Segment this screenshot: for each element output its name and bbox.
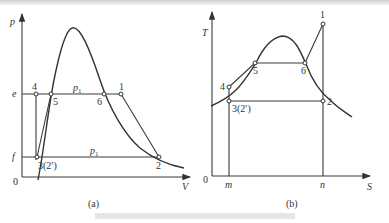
t-axis-label: T [202, 27, 209, 38]
level-e-label: e [12, 88, 17, 99]
label-1-ts: 1 [320, 9, 325, 20]
figure-caption-illegible [95, 213, 295, 219]
label-5: 5 [53, 96, 58, 107]
label-2-ts: 2 [327, 96, 332, 107]
line-6-1 [305, 24, 323, 63]
point-3 [35, 155, 39, 159]
point-4 [34, 92, 38, 96]
diagram-canvas: p V 0 e f p1 p1 4 5 6 1 3(2′) 2 (a) [0, 0, 389, 223]
point-4-ts [227, 85, 231, 89]
v-axis-label: V [182, 181, 190, 192]
label-3-ts: 3(2′) [232, 103, 251, 115]
s-axis-label: S [367, 181, 372, 192]
label-3: 3(2′) [38, 160, 57, 172]
pv-diagram: p V 0 e f p1 p1 4 5 6 1 3(2′) 2 (a) [9, 14, 190, 210]
label-6: 6 [97, 96, 102, 107]
level-f-label: f [12, 151, 16, 162]
p-axis-label: p [9, 16, 15, 27]
label-5-ts: 5 [253, 65, 258, 76]
point-1-ts [321, 22, 325, 26]
pressure-p1-upper: p1 [72, 82, 82, 95]
ts-diagram: T S 0 m n 1 5 6 4 3(2′) 2 (b) [202, 9, 372, 210]
point-2 [157, 155, 161, 159]
tick-m: m [225, 179, 232, 190]
label-2: 2 [156, 160, 161, 171]
point-1 [119, 92, 123, 96]
point-2-ts [321, 99, 325, 103]
label-1: 1 [119, 81, 124, 92]
label-4: 4 [32, 81, 37, 92]
point-3-ts [227, 99, 231, 103]
caption-a: (a) [88, 198, 99, 210]
point-6 [102, 92, 106, 96]
origin-label: 0 [13, 176, 18, 187]
label-4-ts: 4 [220, 81, 225, 92]
origin-label-ts: 0 [203, 174, 208, 185]
tick-n: n [320, 179, 325, 190]
pressure-p1-lower: p1 [89, 145, 99, 158]
caption-b: (b) [286, 198, 298, 210]
label-6-ts: 6 [301, 65, 306, 76]
